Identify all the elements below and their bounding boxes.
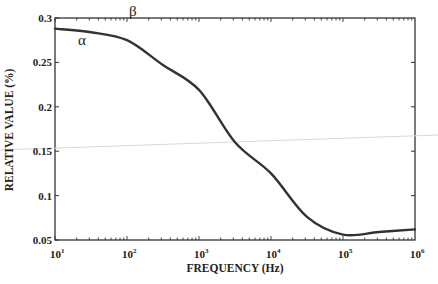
x-tick-label: 105 [338, 247, 353, 260]
data-curve [55, 29, 415, 236]
beta-annotation: β [129, 3, 137, 19]
y-tick-label: 0.05 [33, 234, 53, 246]
x-tick-label: 101 [50, 247, 65, 260]
y-ticks [55, 18, 415, 240]
plot-frame [55, 18, 415, 240]
chart: 0.05 0.1 0.15 0.2 0.25 0.3 101 102 103 1… [0, 0, 438, 284]
x-tick-labels: 101 102 103 104 105 106 [50, 247, 425, 260]
x-tick-label: 104 [266, 247, 281, 260]
x-axis-title: FREQUENCY (Hz) [187, 262, 284, 275]
y-tick-label: 0.15 [33, 145, 53, 157]
y-tick-label: 0.25 [33, 56, 53, 68]
x-tick-label: 103 [194, 247, 209, 260]
y-axis-title: RELATIVE VALUE (%) [3, 68, 16, 191]
x-tick-label: 102 [122, 247, 137, 260]
scan-artifact-line [0, 135, 438, 150]
y-tick-labels: 0.05 0.1 0.15 0.2 0.25 0.3 [33, 12, 53, 246]
y-tick-label: 0.3 [38, 12, 52, 24]
y-tick-label: 0.2 [38, 101, 52, 113]
x-ticks [55, 18, 412, 240]
y-tick-label: 0.1 [38, 190, 52, 202]
alpha-annotation: α [78, 32, 86, 48]
x-tick-label: 106 [410, 247, 425, 260]
